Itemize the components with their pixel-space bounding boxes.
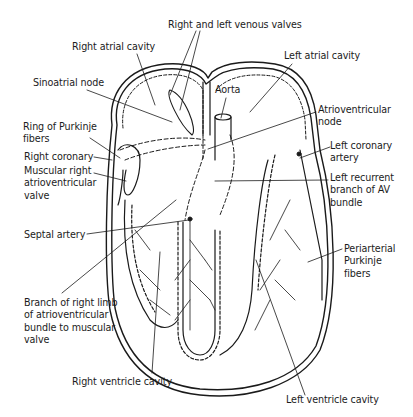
right-ventricle-wall bbox=[124, 200, 178, 328]
label-right-ventricle-cavity: Right ventricle cavity bbox=[72, 376, 172, 388]
label-septal-artery: Septal artery bbox=[24, 229, 85, 241]
label-left-atrial-cavity: Left atrial cavity bbox=[284, 50, 360, 62]
label-atrioventricular-node: Atrioventricular node bbox=[318, 104, 391, 129]
label-right-left-venous-valves: Right and left venous valves bbox=[168, 19, 302, 31]
venous-valve bbox=[169, 90, 193, 135]
label-right-atrial-cavity: Right atrial cavity bbox=[72, 41, 155, 53]
label-ring-of-purkinje-fibers: Ring of Purkinje fibers bbox=[23, 121, 97, 146]
label-aorta: Aorta bbox=[215, 84, 240, 96]
label-muscular-right-av-valve: Muscular right atrioventricular valve bbox=[24, 165, 96, 202]
label-left-ventricle-cavity: Left ventricle cavity bbox=[286, 394, 379, 406]
label-sinoatrial-node: Sinoatrial node bbox=[33, 77, 104, 89]
label-right-coronary: Right coronary bbox=[24, 151, 93, 163]
label-left-coronary-artery: Left coronary artery bbox=[330, 140, 392, 165]
conduction-pathways bbox=[120, 135, 234, 220]
label-left-recurrent-branch: Left recurrent branch of AV bundle bbox=[330, 172, 394, 209]
label-branch-right-limb: Branch of right limb of atrioventricular… bbox=[24, 297, 118, 347]
right-av-valve bbox=[118, 145, 140, 205]
label-periarterial-purkinje-fibers: Periarterial Purkinje fibers bbox=[344, 243, 395, 280]
purkinje-branches bbox=[135, 200, 300, 330]
aorta-vessel bbox=[215, 114, 231, 160]
coronary-node-dot bbox=[297, 152, 301, 156]
